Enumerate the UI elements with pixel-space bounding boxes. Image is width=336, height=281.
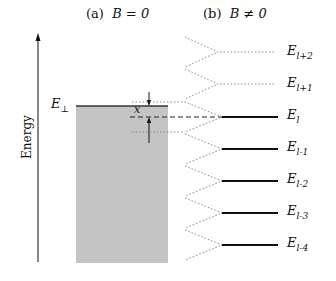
fan-lines	[185, 37, 222, 260]
level-label: El-2	[287, 171, 308, 189]
energy-level-diagram: (a) B = 0 (b) B ≠ 0 Energy E⊥ x El+2 El+…	[0, 0, 336, 281]
diagram-graphics	[0, 0, 336, 281]
level-label: El-1	[287, 139, 308, 157]
panel-b-title: (b) B ≠ 0	[203, 6, 267, 21]
level-label: El-4	[287, 235, 308, 253]
band-edge-label: E⊥	[51, 96, 69, 114]
level-label: El+2	[287, 43, 313, 61]
gap-label: x	[134, 103, 140, 116]
level-label: El+1	[287, 75, 313, 93]
continuum-band	[76, 106, 168, 263]
energy-axis-arrow	[36, 33, 41, 262]
energy-axis-label: Energy	[20, 112, 34, 162]
level-bars	[220, 52, 278, 245]
panel-a-title: (a) B = 0	[86, 6, 149, 21]
level-label: El-3	[287, 203, 308, 221]
level-label: El	[287, 107, 299, 125]
